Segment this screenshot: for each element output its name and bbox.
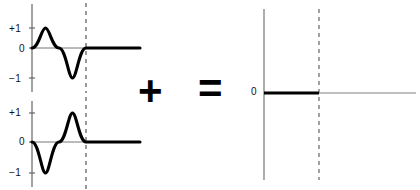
figure-canvas: +1 0 −1 +1 0 −1 + = (0, 0, 420, 190)
wave-1-label-plus-one: +1 (9, 24, 21, 34)
sum-result-label-zero: 0 (251, 87, 257, 97)
equals-operator: = (198, 68, 223, 110)
wave-2-label-minus-one: −1 (9, 168, 21, 178)
sum-result-plot (246, 0, 420, 190)
wave-2-label-plus-one: +1 (9, 108, 21, 118)
sum-result-panel (246, 0, 420, 190)
wave-1-label-minus-one: −1 (9, 74, 21, 84)
wave-1-label-zero: 0 (19, 44, 25, 54)
wave-2-label-zero: 0 (19, 137, 25, 147)
plus-operator: + (138, 70, 163, 112)
